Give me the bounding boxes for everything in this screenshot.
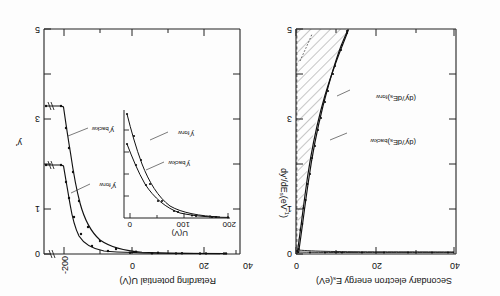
left-curve-label-forw-sub: forw [376,94,387,100]
left-curve-label-backw-close: ) [387,138,390,147]
left-curve-label-forw-main: (dy'/dE [393,94,416,103]
inset-curve-label-forw: y'forw [178,129,194,138]
right-xtick-minus200: -200 [61,256,70,274]
left-curve-label-backw: (dy'/dEs)backw [370,137,416,146]
right-xtick-0: 0 [130,261,135,270]
left-x-axis-title-unit: (eV) [316,276,333,286]
left-curve-label-forw-es: s [390,94,393,100]
inset-xtick-200: 200 [223,220,236,229]
left-x-axis-title-subscript: s [333,276,336,282]
left-curve-label-backw-es: s [390,138,393,144]
rotated-figure-container: Secondary electron energy Es(eV) 0 20 40… [0,0,500,296]
left-x-axis-title: Secondary electron energy Es(eV) [316,274,452,286]
right-ytick-0: 0 [35,249,40,258]
left-panel: Secondary electron energy Es(eV) 0 20 40… [250,0,500,296]
right-curve-label-forw-sub: forw [99,182,110,188]
right-y-axis-title: y' [16,138,22,148]
right-curve-label-backw-sub: backw [92,126,109,132]
inset-curve-label-backw-main: y' [186,161,191,168]
inset-curve-label-backw: y'backw [168,159,190,168]
left-curve-label-backw-main: (dy'/dE [393,138,416,147]
inset-curve-label-forw-sub: forw [178,130,189,136]
left-curve-label-forw-close: ) [387,94,390,103]
hatched-region [298,29,348,254]
left-x-axis-title-text: Secondary electron energy E [336,276,452,286]
inset-xtick-100: 100 [177,220,190,229]
left-xtick-40: 40 [450,261,460,270]
inset-curve-label-forw-main: y' [190,131,195,138]
left-ytick-5: 5 [287,25,292,34]
left-y-axis-title-close: ) [279,215,289,218]
right-markers-backw [45,164,225,255]
right-curve-label-backw-main: y' [109,126,114,135]
right-curve-label-backw: y'backw [92,125,114,134]
right-markers-forw [45,105,227,255]
left-xtick-0: 0 [294,261,299,270]
left-ytick-3: 3 [287,114,292,123]
right-ytick-1: 1 [35,204,40,213]
right-x-axis-title: Retarding potential U(V) [119,276,216,286]
right-curve-label-forw: y'forw [99,181,116,190]
right-ytick-3: 3 [35,114,40,123]
inset-xtick-0: 0 [128,220,132,229]
figure-page: Secondary electron energy Es(eV) 0 20 40… [0,0,500,296]
right-xtick-20: 20 [199,261,209,270]
left-xtick-20: 20 [372,261,382,270]
left-curve-label-backw-sub: backw [370,138,387,144]
left-y-axis-title-text: dy'/dE [279,168,289,193]
left-ytick-0: 0 [287,249,292,258]
inset-curve-label-backw-sub: backw [168,160,185,166]
right-xtick-40: 40 [243,261,253,270]
right-ytick-5: 5 [35,25,40,34]
left-ytick-1: 1 [287,204,292,213]
right-curve-label-forw-main: y' [111,182,116,191]
right-panel: Retarding potential U(V) -200 0 20 40 y'… [0,0,250,296]
inset-x-axis-title: U(V) [172,228,188,238]
left-curve-label-forw: (dy'/dEs)forw [376,93,416,102]
